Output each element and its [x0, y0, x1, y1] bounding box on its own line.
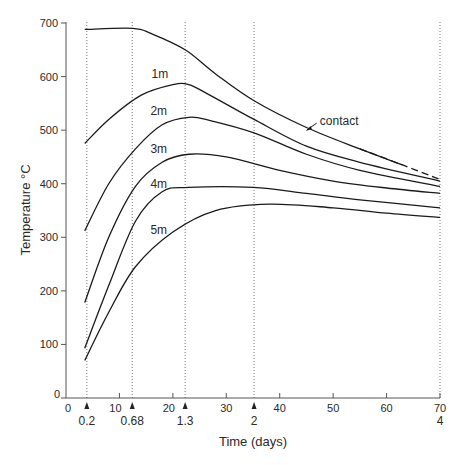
x-tick-label: 0 — [65, 402, 71, 414]
series-curves — [85, 28, 440, 360]
arrow-up-icon — [84, 402, 89, 409]
x-tick-label: 50 — [327, 402, 339, 414]
time-marker-label: 2 — [251, 414, 258, 428]
arrow-up-icon — [252, 402, 257, 409]
series-label-contact: contact — [320, 114, 359, 128]
y-tick-label: 600 — [40, 71, 58, 83]
x-tick-label: 20 — [163, 402, 175, 414]
curve-4m — [85, 187, 440, 348]
x-tick-label: 40 — [274, 402, 286, 414]
x-tick-label: 30 — [220, 402, 232, 414]
x-axis-label: Time (days) — [219, 434, 287, 449]
arrow-icon — [306, 126, 312, 131]
x-tick-label: 10 — [109, 402, 121, 414]
curve-5m — [85, 204, 440, 360]
y-tick-label: 100 — [40, 338, 58, 350]
arrow-up-icon — [183, 402, 188, 409]
y-tick-label: 0 — [54, 388, 60, 400]
y-tick-label: 500 — [40, 124, 58, 136]
curve-contact — [85, 28, 403, 165]
y-tick-label: 400 — [40, 178, 58, 190]
arrow-up-icon — [130, 402, 135, 409]
x-tick-label: 70 — [434, 402, 446, 414]
y-ticks: 0100200300400500600700 — [40, 17, 66, 400]
time-marker-label: 0.68 — [121, 414, 145, 428]
series-label-3m: 3m — [150, 142, 167, 156]
series-label-1m: 1m — [151, 67, 168, 81]
y-axis-label: Temperature °C — [18, 164, 33, 255]
series-labels: contact1m2m3m4m5m — [150, 67, 359, 237]
time-marker-label: 1.3 — [177, 414, 194, 428]
x-ticks: 010203040506070 — [65, 393, 446, 414]
x-tick-label: 60 — [380, 402, 392, 414]
series-label-4m: 4m — [150, 177, 167, 191]
y-tick-label: 700 — [40, 17, 58, 29]
series-label-5m: 5m — [150, 223, 167, 237]
y-tick-label: 300 — [40, 231, 58, 243]
time-marker-label: 4 — [437, 414, 444, 428]
y-tick-label: 200 — [40, 285, 58, 297]
temperature-time-chart: 0.20.681.324 0100200300400500600700 0102… — [0, 0, 461, 465]
series-label-2m: 2m — [150, 104, 167, 118]
time-marker-label: 0.2 — [78, 414, 95, 428]
